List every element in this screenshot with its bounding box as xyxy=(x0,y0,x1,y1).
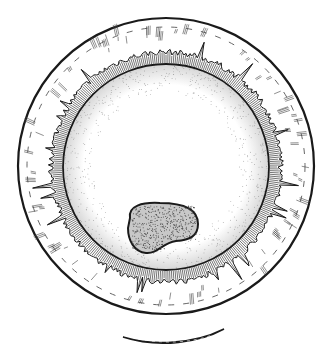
stipple-dot xyxy=(111,90,112,91)
stipple-dot xyxy=(217,240,218,241)
nucleus-dot xyxy=(144,236,145,237)
nucleus-dot xyxy=(134,224,135,225)
nucleus-dot xyxy=(138,244,139,245)
nucleus-dot xyxy=(169,229,170,230)
nucleus-dot xyxy=(156,236,157,237)
stipple-dot xyxy=(162,85,163,86)
stipple-dot xyxy=(198,261,199,262)
egg-cell-illustration xyxy=(0,0,327,364)
nucleus-dot xyxy=(144,231,145,232)
nucleus-dot xyxy=(138,238,139,239)
nucleus-dot xyxy=(135,206,136,207)
stipple-dot xyxy=(84,112,85,113)
stipple-dot xyxy=(68,161,69,162)
nucleus-dot xyxy=(173,214,174,215)
stipple-dot xyxy=(141,256,142,257)
stipple-dot xyxy=(173,251,174,252)
stipple-dot xyxy=(91,148,92,149)
stipple-dot xyxy=(204,239,205,240)
nucleus-dot xyxy=(154,247,155,248)
stipple-dot xyxy=(138,253,139,254)
stipple-dot xyxy=(78,166,79,167)
nucleus-dot xyxy=(186,227,187,228)
stipple-dot xyxy=(212,240,213,241)
stipple-dot xyxy=(235,238,236,239)
stipple-dot xyxy=(250,192,251,193)
stipple-dot xyxy=(89,179,90,180)
nucleus-dot xyxy=(167,217,168,218)
stipple-dot xyxy=(156,71,157,72)
stipple-dot xyxy=(190,81,191,82)
nucleus-dot xyxy=(193,217,194,218)
stipple-dot xyxy=(93,108,94,109)
nucleus-dot xyxy=(171,234,172,235)
stipple-dot xyxy=(188,241,189,242)
nucleus-dot xyxy=(177,231,178,232)
stipple-dot xyxy=(248,114,249,115)
stipple-dot xyxy=(101,218,102,219)
stipple-dot xyxy=(72,151,73,152)
stipple-dot xyxy=(230,245,231,246)
stipple-dot xyxy=(233,110,234,111)
nucleus-dot xyxy=(177,237,178,238)
nucleus-dot xyxy=(186,236,187,237)
stipple-dot xyxy=(70,134,71,135)
nucleus-dot xyxy=(149,225,150,226)
stipple-dot xyxy=(105,212,106,213)
nucleus-dot xyxy=(195,234,196,235)
stipple-dot xyxy=(218,228,219,229)
nucleus-dot xyxy=(180,210,181,211)
stipple-dot xyxy=(189,69,190,70)
stipple-dot xyxy=(217,86,218,87)
nucleus-dot xyxy=(170,206,171,207)
stipple-dot xyxy=(212,94,213,95)
stipple-dot xyxy=(88,168,89,169)
nucleus-dot xyxy=(161,231,162,232)
stipple-dot xyxy=(78,133,79,134)
nucleus-dot xyxy=(162,244,163,245)
nucleus-dot xyxy=(179,229,180,230)
stipple-dot xyxy=(161,75,162,76)
stipple-dot xyxy=(192,98,193,99)
nucleus-dot xyxy=(137,244,138,245)
nucleus-dot xyxy=(151,226,152,227)
nucleus-dot xyxy=(140,244,141,245)
stipple-dot xyxy=(144,83,145,84)
nucleus-dot xyxy=(182,228,183,229)
nucleus-dot xyxy=(167,227,168,228)
stipple-dot xyxy=(223,222,224,223)
stipple-dot xyxy=(169,73,170,74)
nucleus-dot xyxy=(193,234,194,235)
stipple-dot xyxy=(124,256,125,257)
stipple-dot xyxy=(241,118,242,119)
stipple-dot xyxy=(100,243,101,244)
stipple-dot xyxy=(211,101,212,102)
stipple-dot xyxy=(157,88,158,89)
stipple-dot xyxy=(235,136,236,137)
stipple-dot xyxy=(217,245,218,246)
stipple-dot xyxy=(91,133,92,134)
nucleus-dot xyxy=(181,216,182,217)
stipple-dot xyxy=(259,200,260,201)
stipple-dot xyxy=(93,204,94,205)
nucleus-dot xyxy=(149,212,150,213)
nucleus-dot xyxy=(157,216,158,217)
stipple-dot xyxy=(257,205,258,206)
nucleus-dot xyxy=(160,220,161,221)
nucleus-dot xyxy=(176,210,177,211)
stipple-dot xyxy=(81,183,82,184)
stipple-dot xyxy=(250,159,251,160)
stipple-dot xyxy=(246,215,247,216)
stipple-dot xyxy=(87,174,88,175)
stipple-dot xyxy=(243,161,244,162)
stipple-dot xyxy=(92,229,93,230)
stipple-dot xyxy=(231,106,232,107)
nucleus-dot xyxy=(139,214,140,215)
stipple-dot xyxy=(240,108,241,109)
stipple-dot xyxy=(243,139,244,140)
stipple-dot xyxy=(242,209,243,210)
nucleus-dot xyxy=(168,238,169,239)
nucleus-dot xyxy=(164,213,165,214)
nucleus-dot xyxy=(142,223,143,224)
stipple-dot xyxy=(255,123,256,124)
